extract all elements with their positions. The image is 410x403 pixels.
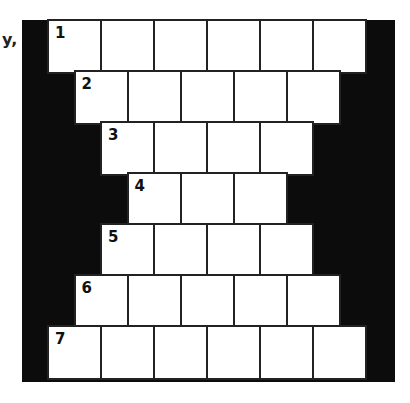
puzzle-cell[interactable]	[100, 21, 153, 72]
crossword-board: 1234567	[22, 20, 395, 382]
clue-number: 4	[135, 177, 145, 195]
clue-number: 7	[55, 330, 65, 348]
puzzle-cell[interactable]	[286, 72, 341, 123]
puzzle-row-4: 4	[127, 172, 288, 227]
clue-number: 2	[82, 75, 92, 93]
puzzle-row-1: 1	[47, 19, 367, 74]
puzzle-cell[interactable]	[153, 225, 206, 276]
clue-number: 6	[82, 279, 92, 297]
puzzle-row-5: 5	[100, 223, 314, 278]
puzzle-row-6: 6	[74, 274, 341, 329]
puzzle-cell[interactable]	[259, 327, 312, 378]
puzzle-cell[interactable]	[180, 72, 233, 123]
clue-number: 1	[55, 24, 65, 42]
puzzle-cell[interactable]	[206, 123, 259, 174]
puzzle-cell[interactable]: 1	[47, 21, 100, 72]
puzzle-cell[interactable]	[233, 72, 286, 123]
puzzle-cell[interactable]: 5	[100, 225, 153, 276]
puzzle-row-3: 3	[100, 121, 314, 176]
puzzle-cell[interactable]	[153, 327, 206, 378]
puzzle-row-7: 7	[47, 325, 367, 380]
puzzle-cell[interactable]	[259, 225, 314, 276]
puzzle-cell[interactable]: 4	[127, 174, 180, 225]
puzzle-cell[interactable]: 7	[47, 327, 100, 378]
puzzle-cell[interactable]: 2	[74, 72, 127, 123]
puzzle-cell[interactable]: 6	[74, 276, 127, 327]
puzzle-cell[interactable]	[312, 21, 367, 72]
puzzle-cell[interactable]	[286, 276, 341, 327]
puzzle-cell[interactable]	[206, 21, 259, 72]
puzzle-cell[interactable]	[180, 174, 233, 225]
puzzle-cell[interactable]	[206, 225, 259, 276]
clue-number: 3	[108, 126, 118, 144]
puzzle-cell[interactable]	[206, 327, 259, 378]
puzzle-cell[interactable]: 3	[100, 123, 153, 174]
puzzle-cell[interactable]	[233, 276, 286, 327]
puzzle-cell[interactable]	[100, 327, 153, 378]
clue-number: 5	[108, 228, 118, 246]
puzzle-cell[interactable]	[233, 174, 288, 225]
puzzle-row-2: 2	[74, 70, 341, 125]
puzzle-cell[interactable]	[180, 276, 233, 327]
puzzle-cell[interactable]	[153, 123, 206, 174]
clipped-text-fragment: y,	[2, 30, 17, 49]
puzzle-cell[interactable]	[259, 123, 314, 174]
puzzle-cell[interactable]	[259, 21, 312, 72]
puzzle-cell[interactable]	[127, 276, 180, 327]
puzzle-cell[interactable]	[153, 21, 206, 72]
puzzle-cell[interactable]	[312, 327, 367, 378]
puzzle-cell[interactable]	[127, 72, 180, 123]
